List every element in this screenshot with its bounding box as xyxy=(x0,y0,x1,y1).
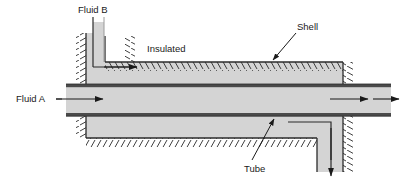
insulation-bottom-hatch xyxy=(86,138,317,147)
label-insulated: Insulated xyxy=(147,43,186,54)
shell-body-group xyxy=(66,22,391,172)
diagram-canvas: Fluid B Fluid A Insulated Shell Tube xyxy=(0,0,403,183)
insulation-left-hatch xyxy=(76,33,86,86)
insulation-bottom-left-hatch xyxy=(76,114,86,138)
insulation-right-lower-hatch xyxy=(343,114,353,172)
label-fluid-b: Fluid B xyxy=(78,4,108,15)
insulation-top-hatch xyxy=(105,62,343,71)
tube-lower-wall xyxy=(66,113,391,116)
heat-exchanger-figure: Fluid B Fluid A Insulated Shell Tube xyxy=(0,0,403,183)
label-fluid-a: Fluid A xyxy=(16,93,46,104)
shell-lower-chamber xyxy=(86,114,343,138)
insulation-right-upper-hatch xyxy=(343,62,353,86)
label-shell: Shell xyxy=(297,21,318,32)
insulation-inner-vertical-hatch xyxy=(125,36,135,62)
fluid-b-inlet-pipe xyxy=(93,22,104,67)
shell-right-wall-fill xyxy=(331,62,343,172)
tube-upper-wall xyxy=(66,84,391,87)
shell-leader-line xyxy=(273,33,296,60)
label-tube: Tube xyxy=(244,163,265,174)
